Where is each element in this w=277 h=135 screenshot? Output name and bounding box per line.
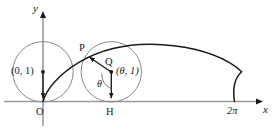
rolling-center-dot — [109, 70, 113, 74]
angle-arc — [102, 73, 112, 88]
radius-qp-segment — [90, 57, 111, 71]
figure-canvas — [0, 0, 277, 135]
start-center-dot — [41, 70, 45, 74]
cycloid-figure: y x (0, 1) (θ, 1) P Q θ O H 2π — [0, 0, 277, 135]
